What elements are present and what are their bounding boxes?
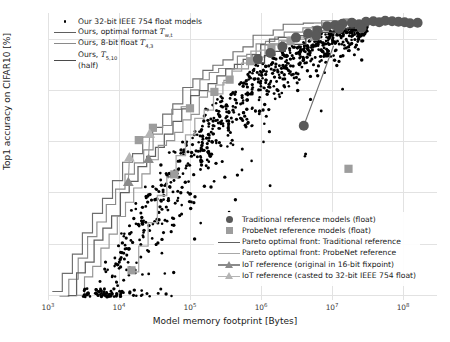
- scatter-point: [201, 141, 204, 144]
- scatter-point: [267, 108, 270, 111]
- scatter-point: [289, 64, 292, 67]
- scatter-point: [241, 94, 244, 97]
- scatter-point: [353, 53, 356, 56]
- scatter-point: [209, 118, 212, 121]
- scatter-point: [100, 295, 103, 298]
- scatter-point: [211, 127, 214, 130]
- scatter-point: [103, 268, 106, 271]
- scatter-point: [225, 120, 228, 123]
- scatter-point: [232, 105, 235, 108]
- y-axis-label: Top1 accuracy on CIFAR10 [%]: [2, 33, 12, 170]
- scatter-point: [276, 70, 279, 73]
- scatter-point: [238, 113, 241, 116]
- scatter-point: [360, 39, 363, 42]
- scatter-point: [246, 98, 249, 101]
- scatter-point: [156, 241, 159, 244]
- legend-item[interactable]: Pareto optimal front: Traditional refere…: [216, 238, 416, 247]
- scatter-point: [214, 162, 217, 165]
- scatter-point: [179, 191, 182, 194]
- legend-item[interactable]: ProbeNet reference models (float): [216, 226, 416, 235]
- scatter-point: [207, 125, 210, 128]
- scatter-point: [309, 75, 312, 78]
- scatter-point: [261, 108, 264, 111]
- scatter-point: [338, 42, 341, 45]
- legend-item-label: Ours, optimal format Tw,t: [78, 28, 173, 38]
- legend-item[interactable]: Ours, 8-bit float T4,3: [52, 39, 202, 49]
- scatter-point: [192, 201, 195, 204]
- scatter-point: [265, 115, 268, 118]
- scatter-point: [220, 119, 223, 122]
- scatter-point: [362, 33, 365, 36]
- legend-item-label: Pareto optimal front: Traditional refere…: [242, 238, 401, 246]
- scatter-point: [94, 292, 97, 295]
- scatter-point: [170, 230, 173, 233]
- scatter-point: [139, 255, 142, 258]
- scatter-point: [305, 61, 308, 64]
- scatter-point: [280, 71, 283, 74]
- scatter-point: [190, 155, 193, 158]
- scatter-point: [229, 93, 232, 96]
- scatter-point: [128, 232, 131, 235]
- legend-item[interactable]: IoT reference (casted to 32-bit IEEE 754…: [216, 271, 416, 280]
- scatter-point: [200, 144, 203, 147]
- scatter-point: [159, 199, 163, 203]
- scatter-point: [205, 146, 208, 149]
- traditional-marker: [334, 24, 344, 34]
- scatter-point: [218, 141, 221, 144]
- scatter-point: [234, 98, 237, 101]
- legend-item[interactable]: Pareto optimal front: ProbeNet reference: [216, 249, 416, 258]
- scatter-point: [303, 47, 306, 50]
- scatter-point: [199, 222, 202, 225]
- scatter-point: [333, 40, 336, 43]
- scatter-point: [140, 289, 143, 292]
- legend-item-label: IoT reference (original in 16-bit fixpoi…: [242, 261, 394, 269]
- scatter-point: [358, 35, 361, 38]
- legend-item[interactable]: IoT reference (original in 16-bit fixpoi…: [216, 260, 416, 269]
- scatter-point: [324, 33, 327, 36]
- scatter-point: [276, 89, 279, 92]
- legend-item[interactable]: Our 32-bit IEEE 754 float models: [52, 17, 202, 26]
- scatter-point: [205, 164, 208, 167]
- scatter-point: [118, 267, 121, 270]
- scatter-point: [265, 70, 268, 73]
- scatter-point: [259, 81, 262, 84]
- legend-item[interactable]: Traditional reference models (float): [216, 215, 416, 224]
- scatter-point: [260, 74, 263, 77]
- legend-item[interactable]: Ours, T5,10(half): [52, 50, 202, 71]
- scatter-point: [268, 86, 271, 89]
- legend-key-line: [52, 39, 78, 48]
- scatter-point: [312, 63, 315, 66]
- scatter-point: [249, 92, 252, 95]
- scatter-point: [347, 45, 350, 48]
- scatter-point: [278, 74, 281, 77]
- legend-item[interactable]: Ours, optimal format Tw,t: [52, 28, 202, 38]
- scatter-point: [245, 107, 248, 110]
- scatter-point: [115, 293, 118, 296]
- scatter-point: [258, 96, 261, 99]
- scatter-point: [295, 52, 298, 55]
- legend-key-triangle: [216, 271, 242, 280]
- scatter-point: [258, 99, 261, 102]
- scatter-point: [135, 295, 138, 298]
- scatter-point: [229, 97, 232, 100]
- scatter-point: [268, 90, 271, 93]
- scatter-point: [104, 260, 107, 263]
- scatter-point: [332, 54, 335, 57]
- scatter-point: [350, 39, 353, 42]
- scatter-point: [343, 44, 346, 47]
- scatter-point: [329, 35, 332, 38]
- scatter-point: [222, 122, 225, 125]
- scatter-point: [325, 36, 328, 39]
- scatter-point: [128, 291, 131, 294]
- scatter-point: [207, 122, 210, 125]
- scatter-point: [231, 139, 234, 142]
- legend-ours: Our 32-bit IEEE 754 float modelsOurs, op…: [52, 17, 202, 72]
- scatter-point: [298, 78, 301, 81]
- scatter-point: [231, 121, 234, 124]
- scatter-point: [260, 85, 263, 88]
- legend-item-label: Our 32-bit IEEE 754 float models: [78, 18, 202, 26]
- scatter-point: [304, 50, 307, 53]
- scatter-point: [293, 77, 296, 80]
- scatter-point: [226, 145, 229, 148]
- scatter-point: [241, 169, 244, 172]
